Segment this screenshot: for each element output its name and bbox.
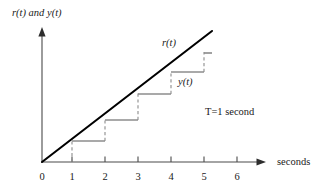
x-tick-label-6: 6	[230, 171, 244, 182]
plot-canvas	[0, 0, 323, 193]
x-axis-label: seconds	[277, 157, 310, 168]
ramp-line-rt	[42, 31, 212, 162]
staircase-risers-yt	[72, 52, 204, 162]
figure-ramp-and-sampled-staircase: r(t) and y(t) seconds r(t) y(t) T=1 seco…	[0, 0, 323, 193]
x-tick-label-4: 4	[164, 171, 178, 182]
y-axis	[38, 27, 45, 162]
x-tick-label-2: 2	[98, 171, 112, 182]
x-axis-ticks	[72, 157, 237, 163]
x-tick-label-0: 0	[35, 171, 49, 182]
ramp-curve-label: r(t)	[162, 38, 176, 49]
x-tick-label-3: 3	[131, 171, 145, 182]
x-tick-label-5: 5	[197, 171, 211, 182]
staircase-treads-yt	[72, 53, 212, 141]
x-tick-label-1: 1	[65, 171, 79, 182]
x-axis	[42, 158, 266, 165]
sampling-period-note: T=1 second	[205, 107, 254, 118]
staircase-curve-label: y(t)	[178, 77, 193, 88]
y-axis-label: r(t) and y(t)	[12, 8, 62, 19]
